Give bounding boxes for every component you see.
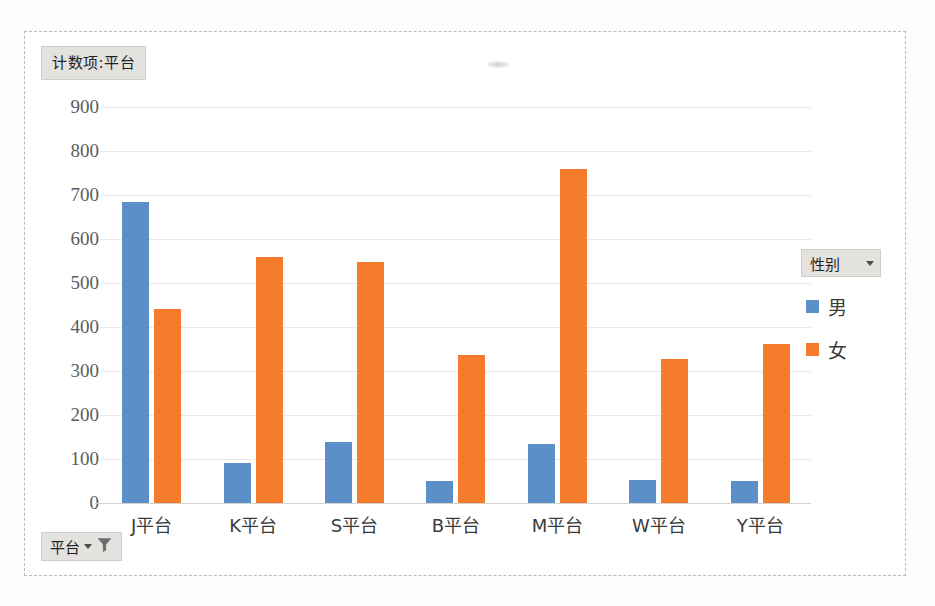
bar-group xyxy=(608,107,709,503)
value-field-button[interactable]: 计数项:平台 xyxy=(41,46,146,80)
bar[interactable] xyxy=(224,463,251,503)
bar[interactable] xyxy=(731,481,758,503)
bar[interactable] xyxy=(528,444,555,503)
bar[interactable] xyxy=(154,309,181,503)
bar[interactable] xyxy=(426,481,453,503)
bar[interactable] xyxy=(763,344,790,503)
y-axis-tick-label: 600 xyxy=(39,228,99,250)
bar[interactable] xyxy=(560,169,587,503)
bar[interactable] xyxy=(122,202,149,503)
y-axis-tick-label: 100 xyxy=(39,448,99,470)
funnel-filter-icon[interactable] xyxy=(96,536,113,557)
category-axis-line xyxy=(95,503,811,504)
bar-series-container xyxy=(101,107,811,503)
bar-group xyxy=(101,107,202,503)
bar-group xyxy=(304,107,405,503)
chevron-down-icon[interactable] xyxy=(866,261,874,266)
scanned-page: 计数项:平台 9008007006005004003002001000 J平台K… xyxy=(0,0,935,606)
y-axis-tick-label: 900 xyxy=(39,96,99,118)
legend-item-label: 女 xyxy=(828,336,847,363)
bar[interactable] xyxy=(661,359,688,503)
bar[interactable] xyxy=(325,442,352,503)
pivot-chart-frame[interactable]: 计数项:平台 9008007006005004003002001000 J平台K… xyxy=(24,31,906,576)
value-field-label: 计数项:平台 xyxy=(52,56,135,71)
y-axis-tick-label: 800 xyxy=(39,140,99,162)
legend[interactable]: 性别 男女 xyxy=(801,249,881,363)
legend-title: 性别 xyxy=(810,253,840,274)
legend-item[interactable]: 女 xyxy=(801,336,881,363)
legend-swatch xyxy=(806,343,819,356)
bar[interactable] xyxy=(357,262,384,503)
y-axis-tick-label: 200 xyxy=(39,404,99,426)
legend-item-label: 男 xyxy=(828,293,847,320)
bar-group xyxy=(710,107,811,503)
filter-field-label: 平台 xyxy=(50,536,80,557)
bar[interactable] xyxy=(256,257,283,503)
legend-field-button[interactable]: 性别 xyxy=(801,249,881,277)
bar-group xyxy=(405,107,506,503)
bar[interactable] xyxy=(458,355,485,503)
chevron-down-icon[interactable] xyxy=(84,544,92,549)
bar-group xyxy=(507,107,608,503)
y-axis-tick-label: 700 xyxy=(39,184,99,206)
scan-artifact xyxy=(487,61,509,68)
legend-items: 男女 xyxy=(801,293,881,363)
y-axis-tick-label: 400 xyxy=(39,316,99,338)
y-axis-tick-label: 300 xyxy=(39,360,99,382)
plot-area: 9008007006005004003002001000 J平台K平台S平台B平… xyxy=(101,107,811,503)
bar-group xyxy=(202,107,303,503)
legend-item[interactable]: 男 xyxy=(801,293,881,320)
filter-field-button[interactable]: 平台 xyxy=(41,532,122,561)
y-axis-tick-label: 500 xyxy=(39,272,99,294)
bar[interactable] xyxy=(629,480,656,503)
legend-swatch xyxy=(806,300,819,313)
x-axis-tick-label: Y平台 xyxy=(695,511,825,537)
